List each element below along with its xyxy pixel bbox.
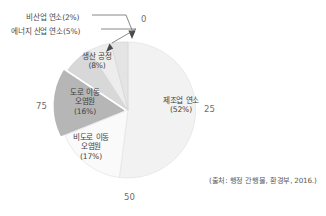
- pie-chart-figure: 0 25 50 75 비산업 연소(2%) 에너지 산업 연소(5%) 제조업 …: [0, 0, 326, 216]
- slice-label-production-name: 생산 공정: [69, 52, 125, 61]
- slice-label-road-name: 도로 이동: [54, 88, 116, 97]
- slice-label-road-name2: 오염원: [54, 97, 116, 106]
- callout-label-nonindustrial: 비산업 연소(2%): [26, 11, 79, 22]
- slice-label-nonroad-name2: 오염원: [58, 142, 124, 151]
- slice-label-manufacturing-name: 제조업 연소: [150, 96, 212, 105]
- callout-label-energy: 에너지 산업 연소(5%): [11, 25, 80, 36]
- slice-label-manufacturing: 제조업 연소 (52%): [150, 96, 212, 115]
- source-note: (출처: 행정 간행물, 환경부, 2016.): [209, 175, 317, 185]
- axis-tick-top: 0: [141, 14, 147, 24]
- slice-label-nonroad: 비도로 이동 오염원 (17%): [58, 133, 124, 161]
- slice-label-production-value: (8%): [69, 61, 125, 70]
- slice-label-road-value: (16%): [54, 107, 116, 116]
- slice-label-manufacturing-value: (52%): [150, 105, 212, 114]
- callout-arrow-nonindustrial: [128, 31, 135, 39]
- slice-label-road: 도로 이동 오염원 (16%): [54, 88, 116, 116]
- axis-tick-left: 75: [36, 101, 47, 111]
- callout-leader-nonindustrial: [92, 15, 132, 30]
- slice-label-nonroad-value: (17%): [58, 152, 124, 161]
- slice-label-nonroad-name: 비도로 이동: [58, 133, 124, 142]
- axis-tick-bottom: 50: [124, 192, 135, 202]
- slice-label-production: 생산 공정 (8%): [69, 52, 125, 71]
